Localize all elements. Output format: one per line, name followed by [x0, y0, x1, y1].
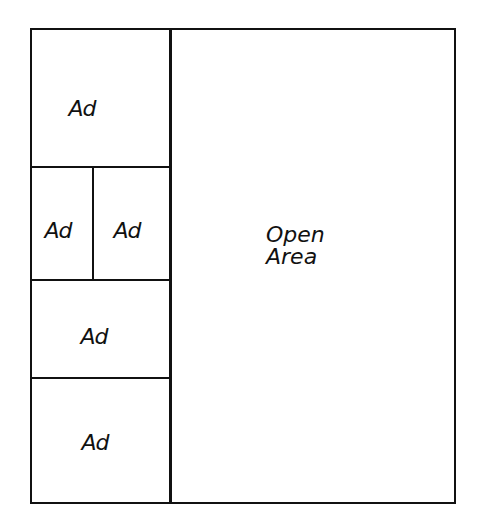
ad-block-small-left: Ad [44, 218, 71, 243]
ad-block-bottom: Ad [81, 430, 108, 455]
open-area-label: Open Area [266, 224, 325, 268]
ad-block-small-right: Ad [113, 218, 140, 243]
ad-block-top: Ad [68, 96, 95, 121]
open-area-line2: Area [266, 246, 325, 268]
ad-divider-2 [31, 279, 170, 281]
ad-divider-3 [31, 377, 169, 379]
ad-block-middle: Ad [80, 324, 107, 349]
ad-divider-1 [31, 166, 170, 168]
column-divider [169, 28, 172, 504]
open-area-line1: Open [266, 224, 325, 246]
ad-split-divider [92, 167, 94, 280]
